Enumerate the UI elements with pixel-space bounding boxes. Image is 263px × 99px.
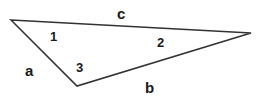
side-label-c: c	[117, 5, 125, 22]
triangle-svg: c a b 1 2 3	[0, 0, 263, 99]
triangle-diagram: c a b 1 2 3	[0, 0, 263, 99]
angle-label-3: 3	[76, 60, 83, 75]
angle-label-2: 2	[157, 35, 164, 50]
triangle-outline	[11, 20, 251, 86]
side-label-a: a	[25, 62, 34, 79]
angle-label-1: 1	[50, 29, 57, 44]
side-label-b: b	[145, 79, 154, 96]
